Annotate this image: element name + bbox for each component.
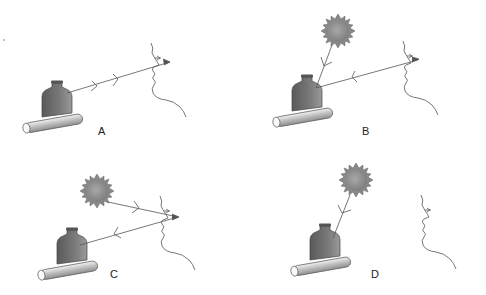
ray-sun-to-bottle — [333, 195, 350, 238]
bottle-icon — [37, 228, 98, 281]
arrow-chevron — [114, 227, 121, 238]
face-icon — [403, 41, 438, 115]
panel-label-d: D — [371, 268, 379, 280]
face-icon — [151, 43, 186, 117]
ray-eye-to-bottle — [316, 60, 418, 88]
panel-label-c: C — [110, 268, 118, 280]
panel-b — [272, 14, 438, 128]
arrow-chevron — [321, 57, 332, 66]
arrowhead — [163, 59, 170, 65]
panel-d — [290, 163, 456, 277]
stray-dot — [3, 39, 5, 41]
ray-eye-to-bottle — [80, 217, 178, 245]
diagram-svg — [0, 0, 486, 295]
face-icon — [421, 195, 456, 269]
sun-icon — [321, 14, 355, 48]
sun-icon — [80, 174, 114, 208]
ray-bottle-to-eye — [67, 62, 170, 93]
bottle-icon — [22, 81, 83, 134]
figure-canvas: A B C D — [0, 0, 486, 295]
arrow-chevron — [113, 74, 118, 86]
sun-icon — [339, 163, 373, 197]
bottle-icon — [272, 75, 333, 128]
ray-sun-to-bottle — [316, 45, 332, 88]
arrow-chevron — [352, 71, 357, 82]
arrowhead — [172, 214, 179, 220]
panel-label-b: B — [362, 125, 369, 137]
panel-c — [37, 174, 195, 281]
ray-sun-to-eye — [108, 202, 178, 217]
face-icon — [160, 196, 195, 270]
arrowhead — [412, 57, 419, 62]
panel-a — [22, 43, 186, 134]
bottle-icon — [290, 224, 351, 277]
arrow-chevron — [91, 81, 97, 91]
panel-label-a: A — [98, 125, 105, 137]
